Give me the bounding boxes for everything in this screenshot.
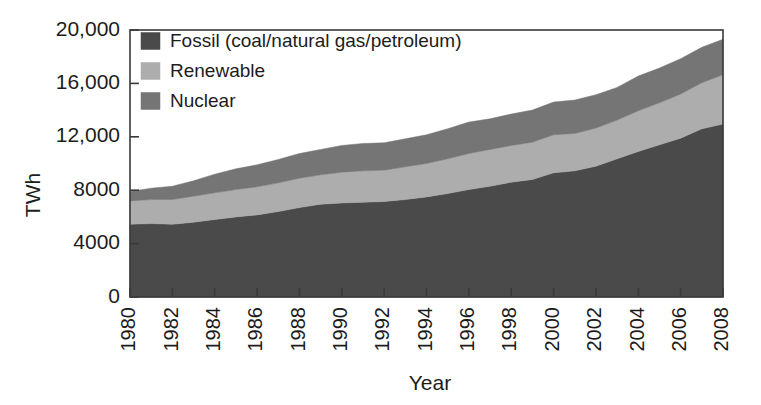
x-tick-label: 2008 xyxy=(710,307,732,352)
x-tick-label: 2006 xyxy=(668,307,690,352)
y-tick-label: 0 xyxy=(108,284,120,307)
legend-swatch-1 xyxy=(141,63,160,80)
x-tick-label: 1988 xyxy=(287,307,309,352)
legend-label-0: Fossil (coal/natural gas/petroleum) xyxy=(170,30,461,51)
x-tick-label: 1986 xyxy=(244,307,266,352)
y-tick-label: 4000 xyxy=(73,230,120,253)
y-tick-label: 16,000 xyxy=(56,70,120,93)
y-tick-label: 12,000 xyxy=(56,123,120,146)
x-tick-label: 2000 xyxy=(541,307,563,352)
x-tick-label: 1992 xyxy=(371,307,393,352)
legend-label-1: Renewable xyxy=(170,60,265,81)
y-tick-label: 8000 xyxy=(73,177,120,200)
legend-swatch-2 xyxy=(141,93,160,110)
chart-figure: 04000800012,00016,00020,000 198019821984… xyxy=(0,0,761,405)
x-tick-label: 1982 xyxy=(160,307,182,352)
x-tick-label: 1996 xyxy=(456,307,478,352)
x-axis-title: Year xyxy=(409,371,451,394)
x-tick-label: 2002 xyxy=(583,307,605,352)
x-tick-label: 1984 xyxy=(202,307,224,352)
stacked-area-chart: 04000800012,00016,00020,000 198019821984… xyxy=(0,0,761,405)
x-tick-label: 1990 xyxy=(329,307,351,352)
legend-swatch-0 xyxy=(141,33,160,50)
x-tick-label: 1994 xyxy=(414,307,436,352)
x-tick-label: 1998 xyxy=(498,307,520,352)
x-tick-label: 1980 xyxy=(117,307,139,352)
y-tick-label: 20,000 xyxy=(56,17,120,40)
x-tick-label: 2004 xyxy=(626,307,648,352)
legend-label-2: Nuclear xyxy=(170,90,236,111)
y-axis-title: TWh xyxy=(21,173,44,217)
